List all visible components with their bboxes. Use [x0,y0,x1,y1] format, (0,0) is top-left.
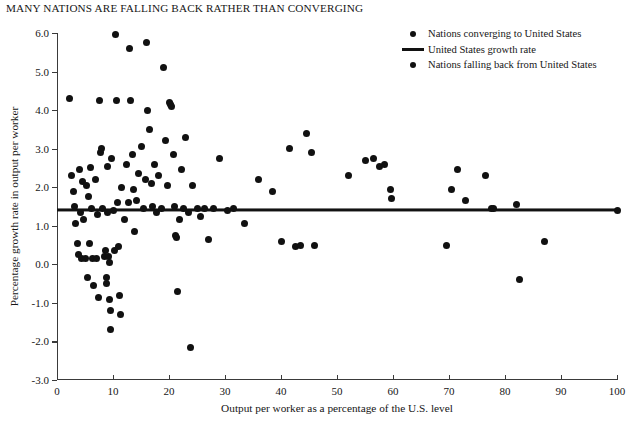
scatter-point [144,107,151,114]
scatter-point [362,157,369,164]
x-tick [393,375,394,380]
y-tick-label: 1.0 [35,220,49,232]
scatter-point [116,292,123,299]
scatter-point [107,307,114,314]
scatter-point [162,137,169,144]
scatter-point [127,97,134,104]
y-axis-line [57,33,58,380]
x-tick-label: 60 [388,385,399,397]
y-tick-label: 2.0 [35,181,49,193]
scatter-point [135,170,142,177]
scatter-point [297,242,304,249]
x-tick-label: 10 [108,385,119,397]
scatter-point [90,282,97,289]
scatter-point [286,145,293,152]
scatter-point [82,255,89,262]
scatter-point [278,238,285,245]
scatter-point [311,242,318,249]
scatter-point [381,161,388,168]
scatter-point [370,155,377,162]
y-tick [52,380,57,381]
scatter-point [146,126,153,133]
x-tick-label: 100 [609,385,626,397]
scatter-point [72,220,79,227]
scatter-point [170,151,177,158]
scatter-point [104,163,111,170]
x-tick [449,375,450,380]
scatter-point [130,186,137,193]
scatter-point [230,205,237,212]
y-tick-label: 4.0 [35,104,49,116]
scatter-point [94,211,101,218]
scatter-point [76,166,83,173]
x-tick-label: 70 [444,385,455,397]
scatter-point [303,130,310,137]
scatter-point [148,180,155,187]
scatter-point [185,209,192,216]
x-tick-label: 20 [164,385,175,397]
x-tick [561,375,562,380]
chart-title: MANY NATIONS ARE FALLING BACK RATHER THA… [6,2,363,14]
scatter-point [77,209,84,216]
x-tick [617,375,618,380]
scatter-point [93,255,100,262]
y-tick [52,226,57,227]
y-tick [52,264,57,265]
scatter-point [143,39,150,46]
scatter-point [168,103,175,110]
scatter-point [118,184,125,191]
scatter-point [129,151,136,158]
y-tick [52,303,57,304]
scatter-point [155,172,162,179]
scatter-point [541,238,548,245]
scatter-point [255,176,262,183]
scatter-point [151,161,158,168]
scatter-point [482,172,489,179]
scatter-point [68,172,75,179]
y-tick [52,33,57,34]
scatter-point [516,276,523,283]
x-tick [337,375,338,380]
scatter-point [125,199,132,206]
scatter-point [85,193,92,200]
x-tick [281,375,282,380]
x-axis-title: Output per worker as a percentage of the… [57,402,617,414]
y-tick-label: 6.0 [35,27,49,39]
x-tick [113,375,114,380]
x-tick-label: 50 [332,385,343,397]
y-tick-label: -1.0 [32,297,49,309]
x-tick-label: 90 [556,385,567,397]
scatter-point [123,161,130,168]
scatter-point [187,344,194,351]
scatter-point [176,216,183,223]
scatter-point [138,143,145,150]
x-tick-label: 40 [276,385,287,397]
scatter-point [74,240,81,247]
y-tick [52,341,57,342]
scatter-point [174,288,181,295]
x-tick-label: 80 [500,385,511,397]
scatter-point [241,220,248,227]
y-axis-title: Percentage growth rate in output per wor… [8,33,24,380]
scatter-point [513,201,520,208]
scatter-point [84,274,91,281]
scatter-point [388,195,395,202]
scatter-point [126,45,133,52]
scatter-point [140,205,147,212]
scatter-point [80,216,87,223]
scatter-point [96,97,103,104]
scatter-point [87,164,94,171]
scatter-point [182,134,189,141]
y-tick [52,110,57,111]
scatter-point [462,197,469,204]
scatter-point [107,326,114,333]
scatter-point [448,186,455,193]
x-tick [169,375,170,380]
scatter-point [117,311,124,318]
y-tick-label: -3.0 [32,374,49,386]
scatter-point [387,186,394,193]
scatter-point [114,199,121,206]
scatter-point [443,242,450,249]
scatter-point [106,259,113,266]
scatter-point [160,64,167,71]
